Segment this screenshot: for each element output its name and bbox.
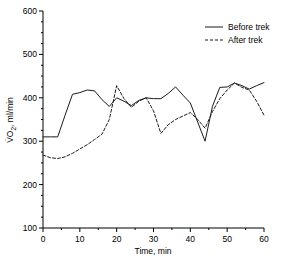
y-axis-title-tail: , ml/min (5, 97, 15, 127)
line-chart: 100200300400500600 0102030405060 Time, m… (0, 0, 300, 263)
x-tick-label: 10 (75, 234, 85, 244)
legend-label-0: Before trek (228, 22, 270, 32)
y-axis: 100200300400500600 (23, 6, 43, 233)
y-axis-title: V̇O2, ml/min (5, 97, 17, 143)
x-tick-label: 50 (222, 234, 232, 244)
x-tick-label: 40 (186, 234, 196, 244)
series-line-1 (43, 83, 264, 159)
y-axis-title-lead: V̇O (5, 130, 15, 143)
x-tick-label: 0 (41, 234, 46, 244)
y-tick-label: 100 (23, 223, 37, 233)
x-tick-labels: 0102030405060 (41, 234, 269, 244)
x-tick-label: 60 (259, 234, 269, 244)
y-tick-label: 300 (23, 136, 37, 146)
y-tick-label: 400 (23, 93, 37, 103)
y-tick-labels: 100200300400500600 (23, 6, 37, 233)
svg-text:V̇O2, ml/min: V̇O2, ml/min (5, 97, 17, 143)
x-axis-title: Time, min (135, 246, 172, 256)
chart-legend: Before trekAfter trek (205, 22, 270, 45)
x-major-ticks (43, 228, 264, 232)
x-tick-label: 30 (149, 234, 159, 244)
series-group (43, 83, 264, 159)
x-tick-label: 20 (112, 234, 122, 244)
legend-label-1: After trek (228, 35, 263, 45)
chart-figure: 100200300400500600 0102030405060 Time, m… (0, 0, 300, 263)
y-tick-label: 600 (23, 6, 37, 16)
y-tick-label: 200 (23, 180, 37, 190)
y-tick-label: 500 (23, 49, 37, 59)
x-axis: 0102030405060 (41, 228, 269, 244)
